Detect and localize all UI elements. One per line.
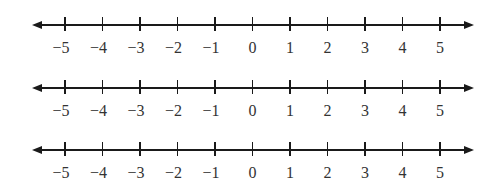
tick-label: 0 [238,165,268,181]
tick-label: 2 [313,165,343,181]
tick-mark [214,142,215,156]
tick-mark [402,142,403,156]
arrow-left-icon [32,146,42,154]
tick-mark [139,142,140,156]
tick-label: 3 [350,165,380,181]
tick-label: −3 [121,165,151,181]
arrow-right-icon [464,146,474,154]
number-line: −5−4−3−2−1012345 [0,0,491,183]
tick-label: 1 [275,165,305,181]
tick-mark [327,142,328,156]
tick-mark [64,142,65,156]
tick-label: 4 [388,165,418,181]
tick-mark [439,142,440,156]
tick-mark [102,142,103,156]
tick-label: −5 [46,165,76,181]
tick-mark [364,142,365,156]
tick-label: −2 [159,165,189,181]
tick-label: 5 [425,165,455,181]
tick-mark [252,142,253,156]
tick-mark [289,142,290,156]
tick-label: −1 [196,165,226,181]
tick-mark [177,142,178,156]
tick-label: −4 [84,165,114,181]
number-lines-diagram: −5−4−3−2−1012345−5−4−3−2−1012345−5−4−3−2… [0,0,491,183]
